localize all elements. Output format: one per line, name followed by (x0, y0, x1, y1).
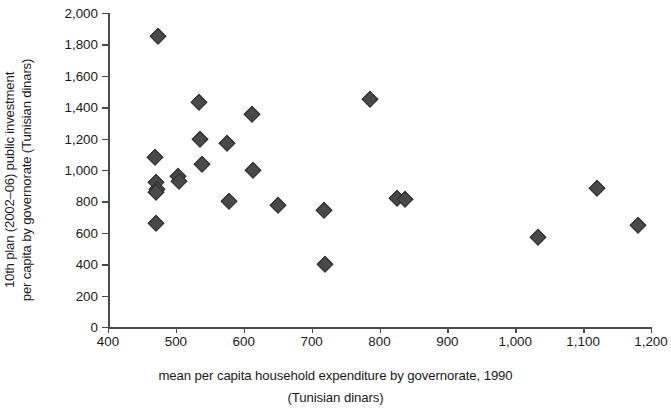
x-tick-label: 1,000 (498, 334, 532, 349)
x-axis-title-line-2: (Tunisian dinars) (0, 390, 671, 405)
data-point (362, 90, 378, 106)
x-tick-label: 700 (300, 334, 322, 349)
data-point (194, 156, 210, 172)
x-tick-label: 1,100 (566, 334, 600, 349)
y-tick-label: 1,400 (52, 100, 98, 115)
x-tick-mark (583, 327, 584, 333)
x-tick-mark (108, 327, 109, 333)
x-tick-mark (380, 327, 381, 333)
x-tick-label: 600 (233, 334, 255, 349)
data-point (589, 180, 605, 196)
data-point (150, 28, 166, 44)
data-point (147, 149, 163, 165)
data-point (244, 106, 260, 122)
data-point (191, 94, 207, 110)
y-tick-label: 1,000 (52, 163, 98, 178)
x-tick-mark (515, 327, 516, 333)
y-tick-label: 1,200 (52, 131, 98, 146)
data-point (245, 162, 261, 178)
data-point (147, 215, 163, 231)
y-tick-label: 2,000 (52, 6, 98, 21)
data-point (192, 131, 208, 147)
y-tick-label: 600 (52, 225, 98, 240)
y-axis-title-line-1: 10th plan (2002–06) public investment (2, 15, 17, 345)
x-axis-title-line-1: mean per capita household expenditure by… (0, 368, 671, 383)
y-tick-label: 200 (52, 288, 98, 303)
y-tick-label: 800 (52, 194, 98, 209)
data-point (530, 229, 546, 245)
x-tick-mark (312, 327, 313, 333)
data-point (630, 217, 646, 233)
y-tick-label: 400 (52, 257, 98, 272)
x-tick-mark (244, 327, 245, 333)
y-axis-title: 10th plan (2002–06) public investment pe… (0, 0, 46, 330)
y-tick-label: 0 (52, 320, 98, 335)
data-point (316, 256, 332, 272)
data-point (270, 197, 286, 213)
x-tick-label: 400 (97, 334, 119, 349)
y-tick-label: 1,600 (52, 68, 98, 83)
plot-area (108, 13, 651, 327)
x-tick-mark (651, 327, 652, 333)
data-point (219, 135, 235, 151)
data-point (316, 202, 332, 218)
x-tick-label: 500 (165, 334, 187, 349)
x-tick-mark (447, 327, 448, 333)
y-axis-title-line-2: per capita by governorate (Tunisian dina… (19, 15, 34, 345)
x-tick-label: 800 (368, 334, 390, 349)
y-tick-label: 1,800 (52, 37, 98, 52)
x-tick-mark (176, 327, 177, 333)
x-tick-label: 900 (436, 334, 458, 349)
x-tick-label: 1,200 (634, 334, 668, 349)
data-point (221, 193, 237, 209)
y-axis-tick-labels: 02004006008001,0001,2001,4001,6001,8002,… (50, 0, 98, 340)
scatter-chart-figure: 10th plan (2002–06) public investment pe… (0, 0, 671, 419)
